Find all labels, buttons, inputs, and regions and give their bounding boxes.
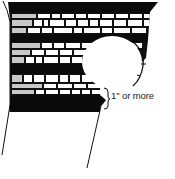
band-2 (0, 34, 175, 42)
right-leader-line (87, 106, 101, 168)
dimension-bracket (104, 88, 110, 109)
diagram-canvas: 1" or more (0, 0, 175, 179)
circular-opening (82, 36, 142, 88)
left-leader-line (2, 105, 10, 155)
dimension-label: 1" or more (111, 90, 154, 101)
top-band (0, 2, 175, 13)
left-edge (3, 1, 10, 112)
